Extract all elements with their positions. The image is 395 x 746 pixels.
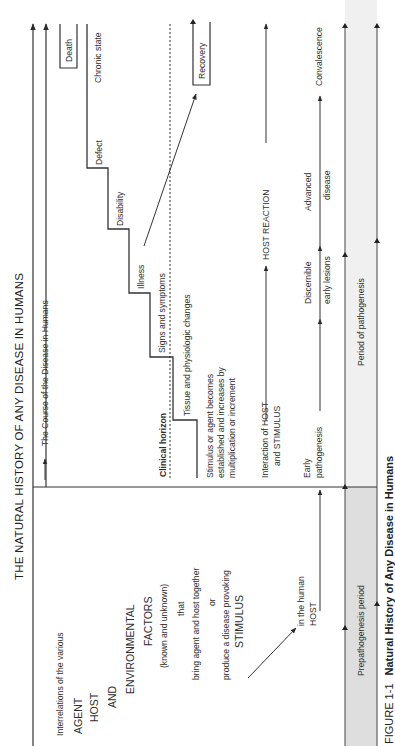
stimulus-established-line2: established and increases by [216, 367, 226, 478]
bring-label: bring agent and host together [191, 568, 201, 680]
intro-label: Interrelations of the various [55, 632, 65, 736]
figure-title: THE NATURAL HISTORY OF ANY DISEASE IN HU… [14, 273, 24, 580]
figure-caption-label: FIGURE 1-1 [383, 683, 395, 744]
stage-defect: Defect [94, 140, 104, 165]
discernible-line1: Discernible [303, 261, 313, 304]
recovery-box: Recovery [197, 43, 207, 79]
discernible-line2: early lesions [322, 256, 332, 304]
advanced-line2: disease [322, 170, 332, 200]
human-host-label: HOST [308, 602, 318, 626]
death-box: Death [64, 39, 74, 62]
stimulus-established-line1: Stimulus or agent becomes [205, 374, 215, 478]
stimulus-label: STIMULUS [233, 595, 245, 648]
agent-label: AGENT [72, 698, 84, 734]
clinical-horizon-label: Clinical horizon [158, 413, 168, 477]
in-human-label: in the human [296, 576, 306, 626]
known-label: (known and unknown) [159, 584, 169, 668]
disease-staircase [87, 24, 197, 478]
stage-chronic-state: Chronic state [93, 32, 103, 83]
stage-signs-symptoms: Signs and symptoms [157, 273, 167, 353]
early-line2: pathogenesis [314, 427, 324, 478]
prepathogenesis-period-label: Prepathogenesis period [356, 585, 366, 676]
stimulus-established-line3: multiplication or increment [227, 378, 237, 478]
stage-disability: Disability [115, 192, 125, 226]
pathogenesis-period-label: Period of pathogenesis [356, 278, 366, 366]
environmental-label: ENVIRONMENTAL [124, 604, 136, 694]
stage-tissue-changes: Tissue and physiologic changes [182, 295, 192, 417]
and-label: AND [106, 686, 118, 708]
early-line1: Early [302, 458, 312, 478]
host-reaction-label: HOST REACTION [261, 189, 271, 260]
host-label: HOST [88, 693, 100, 722]
interaction-line1: Interaction of HOST [260, 402, 270, 478]
factors-label: FACTORS [142, 597, 154, 646]
figure-caption-text: Natural History of Any Disease in Humans [383, 456, 395, 676]
pathogenesis-band [345, 0, 377, 487]
that-label: that [176, 602, 186, 616]
interaction-line2: and STIMULUS [272, 406, 282, 466]
convalescence-label: Convalescence [314, 27, 324, 86]
advanced-line1: Advanced [303, 173, 313, 211]
produce-label: produce a disease provoking [221, 570, 231, 680]
figure-caption: FIGURE 1-1Natural History of Any Disease… [384, 456, 394, 744]
stage-illness: Illness [136, 265, 146, 289]
or-label: or [207, 598, 217, 606]
course-label: The Course of the Disease in Humans [40, 300, 50, 446]
